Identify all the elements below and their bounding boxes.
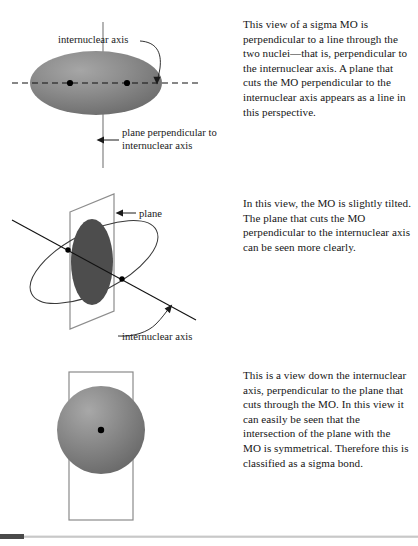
footer-rule-dark-segment [0,534,24,539]
sigma-mo-down-axis-diagram [0,352,240,527]
panel-perpendicular-view: internuclear axis plane perpendicular to… [0,0,418,180]
panel-tilted-caption: In this view, the MO is slightly tilted.… [243,196,411,254]
nucleus-dot [119,276,124,281]
plane-label-leader-arrowhead [97,137,105,144]
sigma-mo-tilted-diagram [0,180,240,352]
nucleus-dot [65,247,70,252]
panel-axial-caption: This is a view down the internuclear axi… [243,368,411,470]
panel-perpendicular-caption: This view of a sigma MO is perpendicular… [243,17,411,119]
footer-rule [0,533,418,541]
nucleus-dot [124,80,130,86]
panel-axial-view: This is a view down the internuclear axi… [0,352,418,546]
plane-perpendicular-label-line1: plane perpendicular to [122,127,217,138]
plane-perpendicular-label: plane perpendicular to internuclear axis [122,126,242,152]
internuclear-axis-label: internuclear axis [122,330,192,343]
panel-tilted-view: plane internuclear axis In this view, th… [0,180,418,352]
plane-label-leader-arrowhead [116,210,124,217]
internuclear-axis-label: internuclear axis [58,33,128,46]
nucleus-dot [98,427,104,433]
nucleus-dot [67,80,73,86]
plane-label: plane [139,207,162,220]
footer-rule-light-segment [24,536,418,538]
plane-perpendicular-label-line2: internuclear axis [122,140,192,151]
plane-mo-intersection-ellipse [71,219,113,305]
sigma-mo-edge-on-diagram [0,0,240,180]
